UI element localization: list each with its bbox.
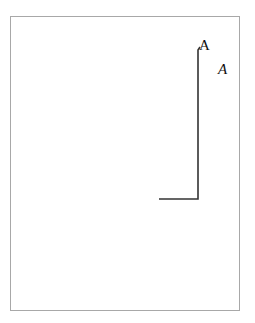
label-italic-a: A <box>217 61 228 77</box>
label-upright-a: A <box>199 37 210 53</box>
l-shaped-line <box>159 47 200 199</box>
diagram-canvas: A A <box>0 0 255 323</box>
